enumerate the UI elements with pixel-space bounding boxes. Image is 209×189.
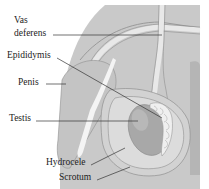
label-epididymis: Epididymis bbox=[7, 50, 51, 60]
label-hydrocele: Hydrocele bbox=[46, 157, 86, 167]
label-scrotum: Scrotum bbox=[59, 172, 92, 182]
label-vas-deferens-line2: deferens bbox=[14, 28, 46, 38]
thigh-shadow bbox=[190, 61, 200, 175]
hydrocele-diagram: Vas deferens Epididymis Penis Testis Hyd… bbox=[0, 0, 209, 189]
label-penis: Penis bbox=[18, 77, 39, 87]
label-vas-deferens-line1: Vas bbox=[14, 15, 28, 25]
label-testis: Testis bbox=[9, 113, 31, 123]
